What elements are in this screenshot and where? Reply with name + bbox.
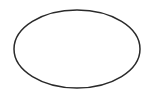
ellipse-shape bbox=[14, 10, 140, 88]
diagram-canvas bbox=[0, 0, 150, 96]
